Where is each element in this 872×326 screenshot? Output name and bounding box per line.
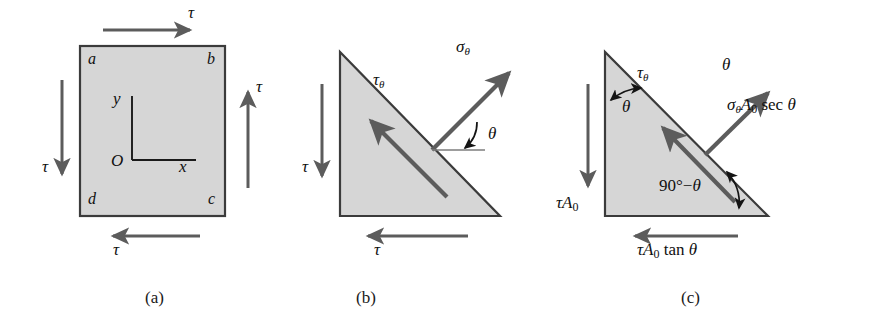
sigma-force-fn-text: sec xyxy=(761,95,783,114)
axis-label-x: x xyxy=(179,158,187,175)
tau-a0-tan-area: A xyxy=(643,240,653,259)
base-angle-symbol: θ xyxy=(692,176,700,195)
tau-theta-label-b: τθ xyxy=(373,71,385,90)
tau-label-top-a: τ xyxy=(188,4,194,21)
tau-theta-sub: θ xyxy=(379,78,384,90)
top-angle-label-c: θ xyxy=(722,56,730,73)
axis-label-y: y xyxy=(113,90,121,107)
corner-label-b: b xyxy=(207,50,215,68)
angle-theta-label-b: θ xyxy=(488,125,496,142)
tau-theta-sub-c: θ xyxy=(643,71,648,83)
tau-a0-tan-fn: tan xyxy=(664,240,685,259)
corner-label-a: a xyxy=(88,50,96,68)
tau-a0-tan-angle: θ xyxy=(689,240,697,259)
tau-a0-label-c: τA0 xyxy=(556,194,578,213)
sigma-theta-label-b: σθ xyxy=(456,38,470,57)
tau-label-bottom-a: τ xyxy=(113,241,119,258)
corner-label-c: c xyxy=(208,190,215,208)
tau-a0-tan-label-c: τA0 tan θ xyxy=(637,241,697,260)
tau-theta-label-c: τθ xyxy=(637,64,649,83)
panel-b-group xyxy=(322,52,509,236)
caption-c: (c) xyxy=(681,288,700,308)
tau-a0-area-sub: 0 xyxy=(572,200,578,214)
caption-b: (b) xyxy=(356,288,376,308)
corner-label-d: d xyxy=(88,190,96,208)
sigma-force-label-c: σθA0 sec θ xyxy=(727,96,796,115)
sigma-theta-arrow-b xyxy=(432,73,509,150)
tau-label-left-a: τ xyxy=(42,158,48,175)
tau-label-right-a: τ xyxy=(256,78,262,95)
panel-c-group xyxy=(588,52,768,236)
base-angle-label-c: 90°−θ xyxy=(659,177,701,194)
sigma-theta-sub: θ xyxy=(464,45,469,57)
sigma-force-angle: θ xyxy=(787,95,795,114)
axis-label-origin: O xyxy=(111,152,123,169)
caption-a: (a) xyxy=(145,288,164,308)
angle-arc-b xyxy=(465,122,477,148)
stress-element-square xyxy=(80,46,225,216)
base-angle-text: 90°− xyxy=(659,176,692,195)
sigma-force-area: A xyxy=(741,95,751,114)
tau-label-bottom-b: τ xyxy=(374,241,380,258)
tau-a0-area: A xyxy=(562,193,572,212)
tau-label-left-b: τ xyxy=(302,158,308,175)
stress-transformation-figure xyxy=(0,0,872,326)
apex-angle-label-c: θ xyxy=(622,98,630,115)
